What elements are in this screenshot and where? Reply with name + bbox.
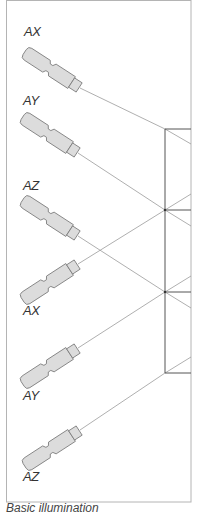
junction-point-1 [164, 209, 166, 211]
figure-caption: Basic illumination [6, 502, 99, 514]
beam-lower-ax [78, 210, 165, 264]
beam-upper-az [78, 236, 165, 292]
beam-lower-az [80, 373, 165, 430]
lamp-label-lower-ax: AX [23, 304, 40, 317]
lamp-upper-ax [21, 46, 83, 93]
lamp-upper-az [19, 194, 81, 241]
lamp-lower-az [21, 425, 83, 472]
lamp-label-upper-ay: AY [23, 94, 39, 107]
lamp-label-upper-az: AZ [23, 179, 39, 192]
beam-lower-ay [78, 292, 165, 348]
lamp-label-lower-ay: AY [23, 389, 39, 402]
junction-point-2 [164, 291, 166, 293]
screen-panel [165, 129, 191, 373]
lamp-lower-ay [19, 343, 81, 390]
lamp-label-upper-ax: AX [24, 25, 41, 38]
beam-upper-ay [78, 153, 165, 210]
light-beams [78, 88, 191, 430]
lamp-label-lower-az: AZ [23, 470, 39, 483]
lamp-lower-ax [19, 259, 81, 306]
beam-upper-ax [80, 88, 165, 129]
lamp-upper-ay [19, 111, 81, 158]
